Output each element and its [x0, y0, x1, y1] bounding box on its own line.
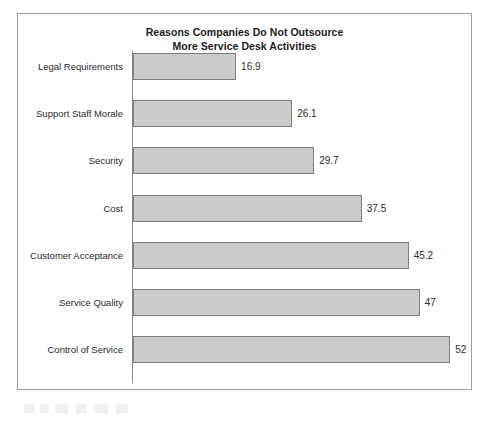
bar-row: Security29.7 [18, 147, 471, 174]
bar-row: Service Quality47 [18, 289, 471, 316]
bar-value-label: 29.7 [314, 147, 338, 174]
bar-row: Control of Service52 [18, 336, 471, 363]
bar-value-label: 37.5 [362, 195, 386, 222]
bar-value-label: 26.1 [292, 100, 316, 127]
bar [133, 336, 450, 363]
bar-value-label: 52 [450, 336, 466, 363]
bar [133, 195, 362, 222]
bar [133, 289, 420, 316]
bar-value-label: 47 [420, 289, 436, 316]
chart-frame: Reasons Companies Do Not Outsource More … [17, 13, 472, 390]
bar-row: Cost37.5 [18, 195, 471, 222]
bar [133, 242, 409, 269]
category-label: Legal Requirements [0, 53, 132, 80]
bar-value-label: 45.2 [409, 242, 433, 269]
bar [133, 147, 314, 174]
bar-row: Legal Requirements16.9 [18, 53, 471, 80]
category-label: Security [0, 147, 132, 174]
category-label: Control of Service [0, 336, 132, 363]
bar [133, 53, 236, 80]
bar [133, 100, 292, 127]
scan-artifact [24, 404, 144, 413]
category-label: Support Staff Morale [0, 100, 132, 127]
category-label: Service Quality [0, 289, 132, 316]
bar-row: Customer Acceptance45.2 [18, 242, 471, 269]
category-label: Cost [0, 195, 132, 222]
bar-row: Support Staff Morale26.1 [18, 100, 471, 127]
category-label: Customer Acceptance [0, 242, 132, 269]
plot-area: Legal Requirements16.9Support Staff Mora… [18, 14, 471, 389]
bar-value-label: 16.9 [236, 53, 260, 80]
